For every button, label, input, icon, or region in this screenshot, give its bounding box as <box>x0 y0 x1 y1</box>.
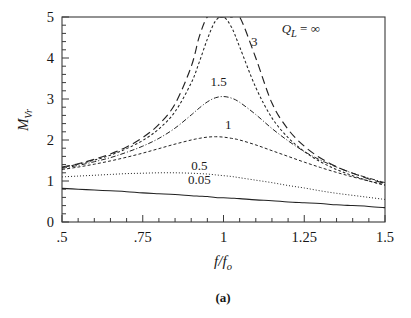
x-axis-title-den-sub: o <box>227 261 232 272</box>
curve-1 <box>62 137 385 185</box>
x-tick-label: 1.5 <box>376 229 394 245</box>
svg-text:f/fo: f/fo <box>214 253 232 272</box>
curve-inf <box>62 14 385 183</box>
y-axis-major-ticks <box>62 17 69 222</box>
y-axis-title-sub: Vr <box>23 108 34 119</box>
y-tick-label: 2 <box>47 132 54 148</box>
x-axis-tick-labels: .5.7511.251.5 <box>57 229 395 245</box>
chart-canvas: 012345 .5.7511.251.5 QL = ∞31.510.50.05 … <box>0 0 411 318</box>
q-value: = ∞ <box>297 21 320 36</box>
data-curves <box>62 14 385 208</box>
curve-label: 1.5 <box>211 74 227 89</box>
curve-3 <box>62 17 385 185</box>
y-tick-label: 5 <box>47 9 54 25</box>
x-tick-label: .75 <box>134 229 152 245</box>
x-tick-label: 1 <box>220 229 227 245</box>
y-axis-title: MVr <box>15 108 34 132</box>
curve-0.05 <box>62 188 385 207</box>
y-tick-label: 4 <box>47 50 55 66</box>
curve-label: QL = ∞ <box>282 21 320 39</box>
x-axis-title: f/fo <box>214 253 232 272</box>
y-axis-minor-ticks <box>62 25 66 214</box>
y-tick-label: 0 <box>47 214 54 230</box>
x-tick-label: 1.25 <box>292 229 317 245</box>
y-tick-label: 3 <box>47 91 54 107</box>
curve-0.5 <box>62 173 385 200</box>
svg-text:MVr: MVr <box>15 108 34 132</box>
figure-container: 012345 .5.7511.251.5 QL = ∞31.510.50.05 … <box>0 0 411 318</box>
y-axis-tick-labels: 012345 <box>47 9 55 230</box>
curve-label: 0.05 <box>188 172 211 187</box>
figure-caption: (a) <box>215 290 230 305</box>
curve-label: 0.5 <box>191 158 207 173</box>
curve-1.5 <box>62 97 385 183</box>
x-tick-label: .5 <box>57 229 68 245</box>
y-tick-label: 1 <box>47 173 54 189</box>
curve-label: 3 <box>251 34 258 49</box>
curve-label: 1 <box>225 117 232 132</box>
curve-labels: QL = ∞31.510.50.05 <box>188 21 320 186</box>
